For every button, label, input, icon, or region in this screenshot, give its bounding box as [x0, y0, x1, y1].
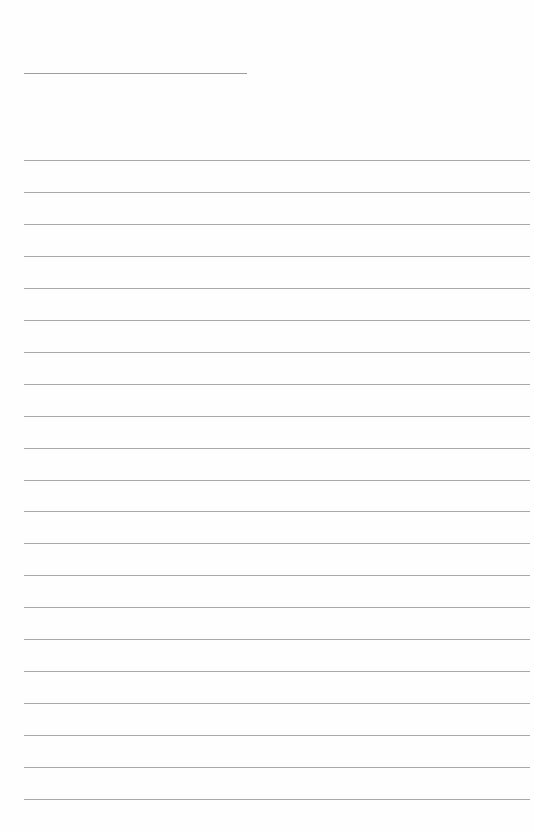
ruled-line [24, 192, 530, 193]
ruled-line [24, 256, 530, 257]
ruled-page [0, 0, 534, 831]
ruled-line [24, 799, 530, 800]
ruled-line [24, 160, 530, 161]
ruled-line [24, 416, 530, 417]
ruled-line [24, 480, 530, 481]
ruled-line [24, 448, 530, 449]
ruled-line [24, 288, 530, 289]
ruled-line [24, 384, 530, 385]
ruled-line [24, 320, 530, 321]
ruled-line [24, 511, 530, 512]
ruled-line [24, 607, 530, 608]
title-underline [24, 73, 247, 74]
ruled-line [24, 352, 530, 353]
ruled-line [24, 703, 530, 704]
ruled-line [24, 671, 530, 672]
ruled-line [24, 575, 530, 576]
ruled-line [24, 224, 530, 225]
ruled-line [24, 639, 530, 640]
ruled-line [24, 767, 530, 768]
ruled-line [24, 735, 530, 736]
ruled-line [24, 543, 530, 544]
